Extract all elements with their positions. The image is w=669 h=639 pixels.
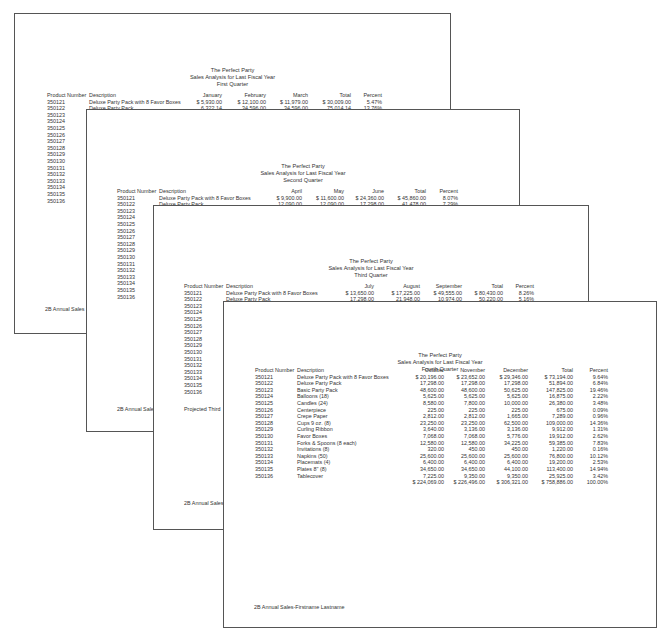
table-row: 350128Cups 9 oz. (8)23,250.0023,250.0062… (255, 420, 610, 427)
product-number: 350133 (47, 178, 65, 185)
month-3-value: 10,000.00 (504, 400, 528, 407)
description: Crepe Paper (297, 413, 328, 420)
product-number: 350134 (47, 184, 65, 191)
product-number: 350126 (47, 132, 65, 139)
total-value: 76,800.00 (549, 453, 573, 460)
total-percent: 100.00% (587, 479, 608, 486)
product-number: 350127 (184, 329, 202, 336)
month-2-value: 2,812.00 (464, 413, 485, 420)
product-number: 350132 (184, 362, 202, 369)
table-header: Product Number Description October Novem… (255, 367, 610, 374)
report-page-q4: The Perfect Party Sales Analysis for Las… (223, 301, 657, 628)
product-number: 350133 (184, 369, 202, 376)
product-number: 350126 (117, 228, 135, 235)
total-value: $ 73,194.00 (545, 374, 573, 381)
percent-value: 19.46% (590, 387, 608, 394)
month-3-value: $ 24,360.00 (356, 195, 384, 202)
month-2-value: 7,800.00 (464, 400, 485, 407)
month-3-value: 34,225.00 (504, 440, 528, 447)
percent-value: 0.09% (593, 407, 608, 414)
company-name: The Perfect Party (87, 163, 519, 170)
product-number: 350129 (255, 426, 273, 433)
header-month-1: April (291, 188, 302, 195)
month-2-value: 7,068.00 (464, 433, 485, 440)
table-row: 350134Placemats (4)6,400.006,400.006,400… (255, 459, 610, 466)
month-1-value: 320.00 (428, 446, 445, 453)
month-3-value: 44,100.00 (504, 466, 528, 473)
product-number: 350133 (255, 453, 273, 460)
header-month-1: January (203, 92, 222, 99)
month-1-value: 7,068.00 (423, 433, 444, 440)
product-number: 350124 (184, 309, 202, 316)
month-1-value: 12,580.00 (420, 440, 444, 447)
product-number: 350121 (184, 290, 202, 297)
grand-total: $ 758,886.00 (542, 479, 573, 486)
percent-value: 8.26% (519, 290, 534, 297)
description: Deluxe Party Pack (297, 380, 341, 387)
month-1-value: 25,600.00 (420, 453, 444, 460)
product-number: 350135 (47, 191, 65, 198)
product-number: 350130 (117, 254, 135, 261)
percent-value: 6.84% (593, 380, 608, 387)
product-number: 350131 (117, 261, 135, 268)
month-3-value: 6,400.00 (507, 459, 528, 466)
table-row: 350131Forks & Spoons (8 each)12,580.0012… (255, 440, 610, 447)
product-number: 350126 (184, 323, 202, 330)
description: Placemats (4) (297, 459, 330, 466)
header-product-number: Product Number (255, 367, 294, 374)
total-value: $ 30,009.00 (323, 99, 351, 106)
product-number: 350136 (255, 473, 273, 480)
month-3-value: $ 11,979.00 (280, 99, 308, 106)
month-1-total: $ 224,069.00 (413, 479, 444, 486)
product-number: 350136 (184, 389, 202, 396)
table-row: 350121Deluxe Party Pack with 8 Favor Box… (255, 374, 610, 381)
month-2-value: $ 17,225.00 (392, 290, 420, 297)
product-number: 350129 (184, 342, 202, 349)
product-number: 350124 (255, 393, 273, 400)
table-row: 350121 Deluxe Party Pack with 8 Favor Bo… (47, 99, 387, 106)
product-number: 350134 (255, 459, 273, 466)
report-title-block: The Perfect Party Sales Analysis for Las… (15, 67, 450, 88)
product-number: 350121 (117, 195, 135, 202)
product-number: 350130 (47, 158, 65, 165)
total-value: 25,925.00 (549, 473, 573, 480)
header-product-number: Product Number (184, 283, 223, 290)
header-description: Description (297, 367, 324, 374)
page-footer: 2B Annual Sales (184, 500, 224, 506)
month-2-value: 12,580.00 (461, 440, 485, 447)
table-header: Product Number Description April May Jun… (117, 188, 462, 195)
quarter-title: Second Quarter (87, 177, 519, 184)
product-number: 350130 (184, 349, 202, 356)
table-row: 350130Favor Boxes7,068.007,068.005,776.0… (255, 433, 610, 440)
product-number: 350127 (47, 138, 65, 145)
product-number: 350132 (255, 446, 273, 453)
month-1-value: 5,625.00 (423, 393, 444, 400)
header-total: Total (562, 367, 573, 374)
product-number: 350122 (255, 380, 273, 387)
product-number: 350135 (184, 382, 202, 389)
percent-value: 10.12% (590, 453, 608, 460)
product-number: 350130 (255, 433, 273, 440)
month-3-value: 62,500.00 (504, 420, 528, 427)
product-number: 350131 (255, 440, 273, 447)
percent-value: 14.36% (590, 420, 608, 427)
quarter-title: Third Quarter (154, 272, 588, 279)
header-total: Total (492, 283, 503, 290)
total-value: 26,380.00 (549, 400, 573, 407)
description: Favor Boxes (297, 433, 327, 440)
month-3-value: 17,298.00 (504, 380, 528, 387)
month-2-value: 5,625.00 (464, 393, 485, 400)
header-month-3: December (503, 367, 528, 374)
month-1-value: 17,298.00 (420, 380, 444, 387)
month-1-value: 225.00 (428, 407, 445, 414)
description: Curling Ribbon (297, 426, 333, 433)
product-number: 350123 (184, 303, 202, 310)
month-3-value: 9,350.00 (507, 473, 528, 480)
product-number: 350122 (117, 201, 135, 208)
month-2-value: 6,400.00 (464, 459, 485, 466)
description: Tablecover (297, 473, 323, 480)
percent-value: 14.94% (590, 466, 608, 473)
table-row: 350124Balloons (18)5,625.005,625.005,625… (255, 393, 610, 400)
total-value: 19,912.00 (549, 433, 573, 440)
description: Deluxe Party Pack with 8 Favor Boxes (226, 290, 318, 297)
